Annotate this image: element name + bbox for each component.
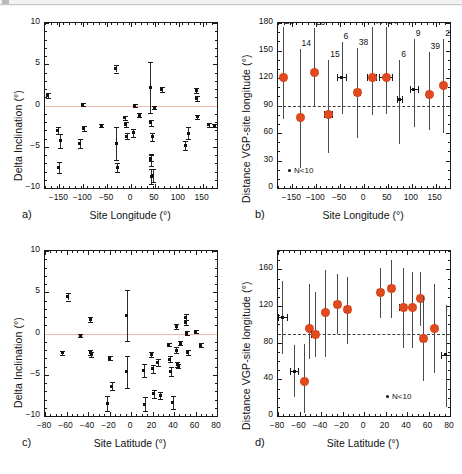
y-minor-tick <box>278 151 280 152</box>
y-minor-tick <box>448 315 450 316</box>
x-minor-tick <box>308 23 309 25</box>
error-bar-cap <box>108 360 113 361</box>
x-tick <box>83 184 84 188</box>
x-minor-tick <box>104 251 105 253</box>
x-minor-tick <box>403 23 404 25</box>
x-minor-tick <box>310 414 311 416</box>
x-minor-tick <box>423 251 424 253</box>
x-minor-tick <box>110 414 111 416</box>
y-minor-tick <box>215 163 217 164</box>
error-bar-cap <box>114 65 119 66</box>
panel-b: Distance VGP-site longitude (°) 28142815… <box>231 6 462 230</box>
panel-c-tag: c) <box>22 436 31 448</box>
x-minor-tick <box>439 414 440 416</box>
x-minor-tick <box>158 414 159 416</box>
legend-marker <box>288 169 291 172</box>
x-minor-tick <box>129 186 130 188</box>
y-minor-tick <box>215 350 217 351</box>
x-minor-tick <box>153 23 154 25</box>
error-bar-cap <box>194 93 199 94</box>
y-minor-tick <box>45 325 47 326</box>
panel-a-tag: a) <box>22 208 32 220</box>
y-minor-tick <box>278 69 280 70</box>
x-minor-tick <box>338 186 339 188</box>
panel-c-xlabel: Site Latitude (°) <box>44 437 216 449</box>
error-bar-cap-v <box>418 86 419 93</box>
data-point <box>199 344 202 347</box>
x-minor-tick <box>142 414 143 416</box>
y-minor-tick <box>278 32 280 33</box>
data-point <box>160 88 163 91</box>
x-minor-tick <box>353 414 354 416</box>
data-point <box>168 358 171 361</box>
x-minor-tick <box>182 186 183 188</box>
y-tick-label: 90 <box>247 99 273 109</box>
x-minor-tick <box>409 23 410 25</box>
data-point <box>159 394 162 397</box>
error-bar-cap-v <box>287 314 288 321</box>
x-minor-tick <box>88 251 89 253</box>
x-minor-tick <box>321 414 322 416</box>
y-minor-tick <box>45 89 47 90</box>
y-minor-tick <box>278 133 280 134</box>
x-minor-tick <box>397 23 398 25</box>
x-minor-tick <box>117 186 118 188</box>
error-bar-vertical <box>300 49 301 168</box>
reference-line <box>45 334 217 335</box>
x-minor-tick <box>433 23 434 25</box>
x-tick <box>203 184 204 188</box>
x-minor-tick <box>409 186 410 188</box>
x-minor-tick <box>147 414 148 416</box>
y-tick-label: 150 <box>247 44 273 54</box>
data-point <box>79 334 82 337</box>
legend-label: N<10 <box>392 392 411 401</box>
x-minor-tick <box>302 186 303 188</box>
y-minor-tick <box>45 342 47 343</box>
y-minor-tick <box>45 416 47 417</box>
x-tick <box>292 184 293 188</box>
x-minor-tick <box>201 251 202 253</box>
x-minor-tick <box>294 414 295 416</box>
y-minor-tick <box>215 292 217 293</box>
x-minor-tick <box>99 23 100 25</box>
x-minor-tick <box>87 23 88 25</box>
panel-a-plot-area <box>44 22 218 189</box>
sample-count-label: 29 <box>445 28 451 38</box>
error-bar-cap <box>82 131 87 132</box>
x-minor-tick <box>386 23 387 25</box>
x-minor-tick <box>126 251 127 253</box>
x-minor-tick <box>56 414 57 416</box>
data-point <box>138 114 141 117</box>
x-minor-tick <box>294 251 295 253</box>
x-minor-tick <box>56 251 57 253</box>
data-point <box>151 135 154 138</box>
error-bar-cap <box>114 127 119 128</box>
titlebar-divider <box>0 4 462 5</box>
data-point <box>195 89 198 92</box>
x-minor-tick <box>188 23 189 25</box>
y-tick-label: 5 <box>14 57 40 67</box>
x-tick-label: 150 <box>186 192 218 202</box>
error-bar-cap <box>168 362 173 363</box>
x-minor-tick <box>320 186 321 188</box>
data-point <box>196 115 199 118</box>
y-minor-tick <box>215 383 217 384</box>
x-minor-tick <box>87 186 88 188</box>
error-bar-cap <box>149 126 154 127</box>
y-minor-tick <box>215 408 217 409</box>
x-minor-tick <box>176 23 177 25</box>
y-minor-tick <box>45 408 47 409</box>
error-bar-cap <box>148 113 153 114</box>
data-point-orange <box>310 68 319 77</box>
error-bar-cap <box>125 341 130 342</box>
y-minor-tick <box>215 97 217 98</box>
y-minor-tick <box>45 147 47 148</box>
x-minor-tick <box>61 251 62 253</box>
sample-count-label: 94 <box>388 22 397 26</box>
panel-c-plot-area <box>44 250 218 417</box>
x-minor-tick <box>439 251 440 253</box>
y-minor-tick <box>45 114 47 115</box>
y-minor-tick <box>215 81 217 82</box>
x-minor-tick <box>188 186 189 188</box>
data-point <box>125 370 128 373</box>
